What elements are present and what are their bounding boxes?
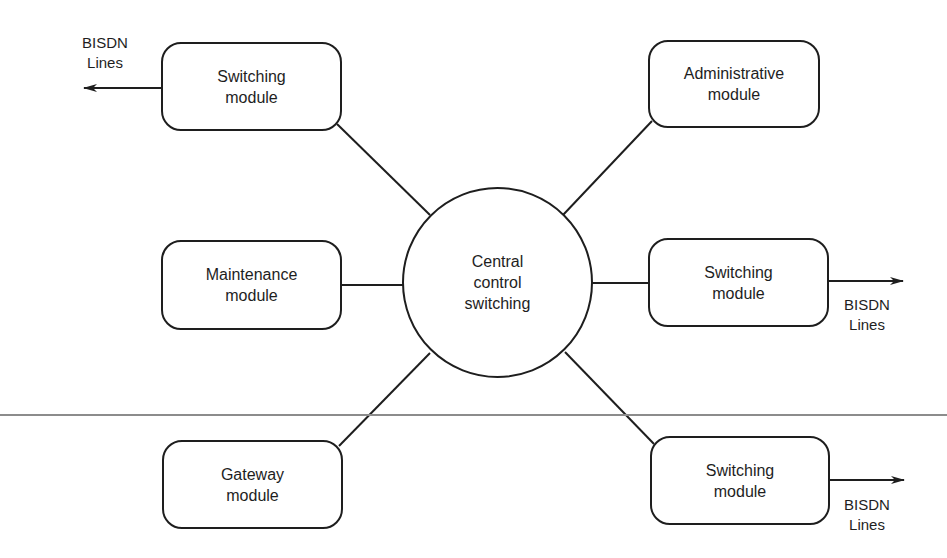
bisdn-label-line-1: BISDN bbox=[70, 33, 140, 53]
page-rule bbox=[0, 414, 947, 416]
bisdn-lines-label-mid-right: BISDN Lines bbox=[832, 295, 902, 335]
module-label-line-2: module bbox=[708, 84, 760, 105]
switching-module-mid-right: Switching module bbox=[648, 238, 829, 327]
gateway-module: Gateway module bbox=[162, 440, 343, 529]
module-label-line-1: Switching bbox=[217, 66, 285, 87]
switching-module-bottom-right: Switching module bbox=[650, 436, 830, 525]
center-label-line-2: control bbox=[473, 272, 521, 293]
bisdn-label-line-1: BISDN bbox=[832, 495, 902, 515]
module-label-line-2: module bbox=[712, 283, 764, 304]
connector-switching-top-left bbox=[337, 124, 430, 215]
module-label-line-1: Gateway bbox=[221, 464, 284, 485]
bisdn-lines-label-bottom-right: BISDN Lines bbox=[832, 495, 902, 535]
bisdn-label-line-2: Lines bbox=[832, 315, 902, 335]
module-label-line-2: module bbox=[226, 485, 278, 506]
switching-module-top-left: Switching module bbox=[161, 42, 342, 131]
maintenance-module: Maintenance module bbox=[161, 240, 342, 330]
module-label-line-2: module bbox=[225, 285, 277, 306]
module-label-line-2: module bbox=[714, 481, 766, 502]
administrative-module: Administrative module bbox=[648, 40, 820, 128]
bisdn-label-line-1: BISDN bbox=[832, 295, 902, 315]
module-label-line-1: Switching bbox=[706, 460, 774, 481]
connector-switching-bottom-right bbox=[565, 352, 654, 444]
bisdn-label-line-2: Lines bbox=[832, 515, 902, 535]
module-label-line-1: Switching bbox=[704, 262, 772, 283]
module-label-line-1: Administrative bbox=[684, 63, 784, 84]
module-label-line-1: Maintenance bbox=[206, 264, 298, 285]
central-control-switching: Central control switching bbox=[402, 187, 593, 378]
module-label-line-2: module bbox=[225, 87, 277, 108]
center-label-line-3: switching bbox=[465, 293, 531, 314]
connector-administrative bbox=[563, 121, 652, 215]
center-label-line-1: Central bbox=[472, 251, 524, 272]
connector-gateway bbox=[339, 353, 430, 446]
bisdn-lines-label-top-left: BISDN Lines bbox=[70, 33, 140, 73]
bisdn-label-line-2: Lines bbox=[70, 53, 140, 73]
